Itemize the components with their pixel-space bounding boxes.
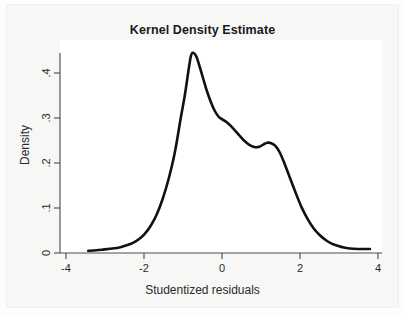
x-tick-label: 0 — [219, 262, 225, 274]
y-tick-labels: 0 .1 .2 .3 .4 — [40, 68, 52, 256]
y-axis-title: Density — [18, 100, 32, 190]
density-curve — [88, 53, 370, 251]
y-tick-label: .2 — [40, 158, 52, 167]
y-axis-ticks — [54, 73, 60, 253]
y-tick-label: .4 — [40, 68, 52, 77]
density-plot-svg: 0 .1 .2 .3 .4 -4 -2 0 2 4 — [0, 0, 405, 316]
x-axis-ticks — [66, 253, 378, 259]
x-tick-label: 2 — [297, 262, 303, 274]
x-tick-label: -2 — [139, 262, 149, 274]
x-tick-label: 4 — [375, 262, 381, 274]
x-tick-labels: -4 -2 0 2 4 — [61, 262, 381, 274]
y-tick-label: .1 — [40, 203, 52, 212]
kernel-density-figure: Kernel Density Estimate 0 .1 .2 .3 — [0, 0, 405, 316]
y-tick-label: .3 — [40, 113, 52, 122]
x-axis-title: Studentized residuals — [0, 283, 405, 297]
y-tick-label: 0 — [40, 250, 52, 256]
x-tick-label: -4 — [61, 262, 71, 274]
